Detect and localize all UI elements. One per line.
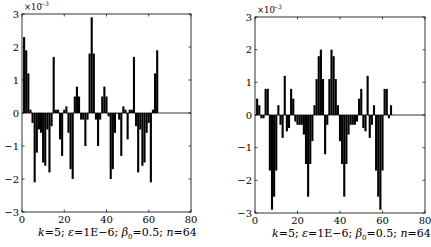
bar xyxy=(141,113,143,166)
bar xyxy=(284,76,286,115)
bar xyxy=(381,115,383,171)
bar xyxy=(371,115,373,125)
bar xyxy=(32,113,34,123)
bar xyxy=(93,54,95,113)
bar xyxy=(384,89,386,115)
bar xyxy=(97,113,99,146)
bar xyxy=(379,115,381,210)
bar xyxy=(91,17,93,113)
bars xyxy=(23,17,158,182)
bar xyxy=(277,105,279,115)
caption-n: n xyxy=(166,226,173,239)
x-tick-label: 40 xyxy=(334,215,347,226)
bar xyxy=(80,113,82,120)
bar xyxy=(360,89,362,115)
bar xyxy=(267,89,269,115)
bar xyxy=(74,97,76,114)
bars xyxy=(256,50,392,210)
right-chart-caption: k=5; ε=1E−6; β0=0.5; n=64 xyxy=(272,227,431,242)
bar xyxy=(67,113,69,133)
bar xyxy=(364,115,366,131)
y-tick-label: −3 xyxy=(4,207,19,218)
bar xyxy=(114,113,116,133)
bar xyxy=(347,115,349,135)
bar xyxy=(55,110,57,113)
bar xyxy=(258,105,260,115)
bar xyxy=(269,115,271,171)
bar xyxy=(352,115,354,125)
caption-k-val: =5; xyxy=(279,227,302,240)
caption-k: k xyxy=(272,227,279,240)
bar xyxy=(59,113,61,139)
bar xyxy=(36,113,38,153)
left-chart-panel: −3−2−10123020406080×10−3 k=5; ε=1E−6; β0… xyxy=(0,0,215,247)
bar xyxy=(61,113,63,156)
right-bar-chart: −3−2−10123020406080×10−3 xyxy=(215,0,431,230)
bar xyxy=(335,79,337,115)
bar xyxy=(354,115,356,125)
bar xyxy=(326,115,328,125)
bar xyxy=(350,115,352,125)
bar xyxy=(301,115,303,125)
bar xyxy=(303,115,305,135)
bar xyxy=(309,115,311,164)
y-multiplier-exponent: −3 xyxy=(40,0,49,7)
y-tick-label: 1 xyxy=(246,77,252,88)
bar xyxy=(29,110,31,113)
bar xyxy=(316,79,318,115)
bar xyxy=(330,50,332,115)
bar xyxy=(271,115,273,210)
x-tick-label: 20 xyxy=(291,215,304,226)
y-tick-label: −1 xyxy=(4,141,19,152)
bar xyxy=(324,115,326,154)
y-tick-label: 0 xyxy=(246,110,252,121)
bar xyxy=(294,115,296,122)
bar xyxy=(51,113,53,126)
bar xyxy=(40,113,42,133)
bar xyxy=(27,73,29,113)
bar xyxy=(388,115,390,118)
bar xyxy=(341,115,343,164)
bar xyxy=(48,113,50,172)
bar xyxy=(131,110,133,113)
bar xyxy=(124,110,126,113)
caption-n: n xyxy=(400,227,407,240)
caption-k: k xyxy=(38,226,45,239)
bar xyxy=(328,79,330,115)
bar xyxy=(286,115,288,131)
bar xyxy=(84,113,86,146)
bar xyxy=(137,113,139,172)
bar xyxy=(377,115,379,197)
bar xyxy=(154,73,156,113)
bar xyxy=(273,115,275,197)
bar xyxy=(129,110,131,113)
bar xyxy=(262,115,264,118)
bar xyxy=(139,113,141,130)
y-tick-label: 1 xyxy=(13,75,19,86)
left-bar-chart: −3−2−10123020406080×10−3 xyxy=(0,0,215,230)
y-tick-label: −2 xyxy=(4,174,19,185)
bar xyxy=(38,113,40,130)
bar xyxy=(108,113,110,116)
left-chart-caption: k=5; ε=1E−6; β0=0.5; n=64 xyxy=(38,226,197,241)
x-tick-label: 0 xyxy=(252,215,258,226)
bar xyxy=(42,113,44,163)
bar xyxy=(133,57,135,113)
bar xyxy=(53,57,55,113)
bar xyxy=(279,115,281,125)
bar xyxy=(367,76,369,115)
bar xyxy=(320,50,322,115)
bar xyxy=(337,105,339,115)
bar xyxy=(313,105,315,115)
bar xyxy=(375,115,377,171)
bar xyxy=(63,110,65,113)
bar xyxy=(103,87,105,113)
x-tick-label: 80 xyxy=(185,214,198,225)
bar xyxy=(78,97,80,114)
x-tick-label: 60 xyxy=(142,214,155,225)
bar xyxy=(25,50,27,113)
caption-n-val: =64 xyxy=(174,226,197,239)
x-tick-label: 60 xyxy=(376,215,389,226)
bar xyxy=(46,113,48,130)
bar xyxy=(296,115,298,125)
